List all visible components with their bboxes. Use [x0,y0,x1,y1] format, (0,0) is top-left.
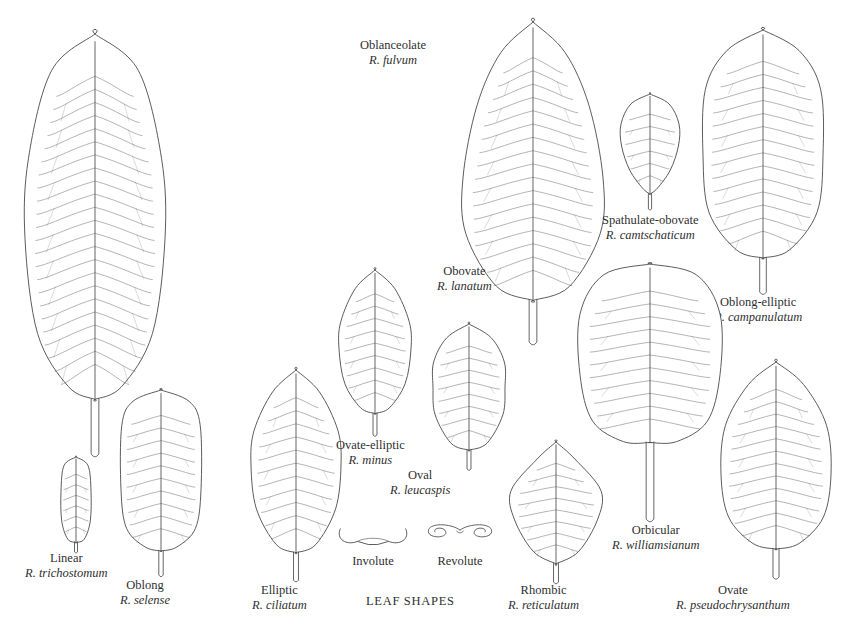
leaf-caption-oblanceolate: OblanceolateR. fulvum [360,38,426,69]
leaf-shape-name-linear: Linear [25,551,108,566]
leaf-caption-oval: OvalR. leucaspis [390,468,450,499]
leaf-shape-name-spathulate-obovate: Spathulate-obovate [602,213,699,228]
leaf-drawing-oblong-elliptic [700,28,826,296]
leaf-shape-name-ovate-elliptic: Ovate-elliptic [336,438,405,453]
leaf-caption-ovate-elliptic: Ovate-ellipticR. minus [336,438,405,469]
leaf-species-name-oblanceolate: R. fulvum [360,53,426,68]
leaf-drawing-ovate [718,360,834,581]
cross-section-diagram-involute [334,525,412,555]
leaf-species-name-elliptic: R. ciliatum [252,598,307,613]
leaf-shape-name-elliptic: Elliptic [252,583,307,598]
leaf-species-name-oblong-elliptic: R. campanulatum [714,310,802,325]
leaf-shape-name-oblong: Oblong [120,578,170,593]
plate-title: LEAF SHAPES [366,594,455,609]
leaf-shape-name-rhombic: Rhombic [508,583,579,598]
leaf-species-name-ovate: R. pseudochrysanthum [676,598,790,613]
leaf-species-name-oval: R. leucaspis [390,483,450,498]
leaf-caption-obovate: ObovateR. lanatum [437,264,492,295]
leaf-shape-name-orbicular: Orbicular [612,523,700,538]
cross-section-label-involute: Involute [334,554,412,569]
cross-section-label-revolute: Revolute [424,554,496,569]
leaf-species-name-linear: R. trichostomum [25,566,108,581]
leaf-caption-orbicular: OrbicularR. williamsianum [612,523,700,554]
leaf-caption-linear: LinearR. trichostomum [25,551,108,582]
leaf-caption-spathulate-obovate: Spathulate-obovateR. camtschaticum [602,213,699,244]
leaf-species-name-obovate: R. lanatum [437,279,492,294]
leaf-species-name-rhombic: R. reticulatum [508,598,579,613]
leaf-caption-elliptic: EllipticR. ciliatum [252,583,307,614]
leaf-caption-ovate: OvateR. pseudochrysanthum [676,583,790,614]
leaf-shape-name-oval: Oval [390,468,450,483]
leaf-species-name-orbicular: R. williamsianum [612,538,700,553]
leaf-shape-name-ovate: Ovate [676,583,790,598]
leaf-species-name-ovate-elliptic: R. minus [336,453,405,468]
leaf-shape-name-oblanceolate: Oblanceolate [360,38,426,53]
leaf-drawing-spathulate-obovate [618,92,682,213]
leaf-drawing-linear [58,455,94,556]
leaf-caption-oblong-elliptic: Oblong-ellipticR. campanulatum [714,295,802,326]
leaf-drawing-elliptic [248,368,344,584]
leaf-shapes-plate: OblanceolateR. fulvumLinearR. trichostom… [0,0,841,641]
leaf-caption-rhombic: RhombicR. reticulatum [508,583,579,614]
cross-section-diagram-revolute [424,521,496,555]
leaf-shape-name-obovate: Obovate [437,264,492,279]
leaf-caption-oblong: OblongR. selense [120,578,170,609]
leaf-drawing-oblong [118,388,204,579]
leaf-drawing-ovate-elliptic [336,268,414,439]
leaf-species-name-oblong: R. selense [120,593,170,608]
leaf-drawing-rhombic [508,440,604,586]
leaf-shape-name-oblong-elliptic: Oblong-elliptic [714,295,802,310]
leaf-species-name-spathulate-obovate: R. camtschaticum [602,228,699,243]
